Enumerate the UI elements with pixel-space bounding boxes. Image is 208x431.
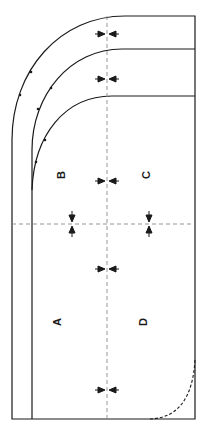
pattern-diagram: B C A D: [0, 0, 208, 431]
notch-dot: [35, 161, 38, 164]
panel-label-c: C: [140, 171, 152, 179]
notch-dot: [37, 108, 40, 111]
notch-dot: [44, 139, 47, 142]
panel-label-b: B: [55, 171, 67, 179]
notch-dot: [30, 71, 33, 74]
outer-outline: [12, 16, 195, 419]
inner-left-edge: [32, 49, 195, 419]
panel-label-d: D: [137, 318, 149, 326]
notch-dot: [50, 87, 53, 90]
panel-label-a: A: [51, 318, 63, 326]
corner-dashed-curve: [150, 360, 195, 419]
notch-dot: [19, 94, 22, 97]
